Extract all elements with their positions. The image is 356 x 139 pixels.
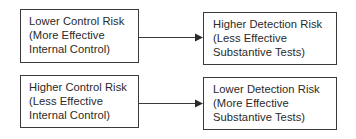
arrow-right-icon [139, 100, 203, 108]
box-title: Lower Control Risk [29, 14, 138, 28]
box-subtitle: Substantive Tests) [213, 45, 336, 59]
box-subtitle: (Less Effective [213, 31, 336, 45]
box-subtitle: (Less Effective [29, 94, 138, 108]
box-title: Higher Control Risk [29, 80, 138, 94]
box-subtitle: Internal Control) [29, 42, 138, 56]
box-subtitle: Substantive Tests) [213, 110, 336, 124]
box-subtitle: (More Effective [213, 96, 336, 110]
lower-control-risk-box: Lower Control Risk (More Effective Inter… [20, 9, 139, 63]
box-title: Lower Detection Risk [213, 82, 336, 96]
lower-detection-risk-box: Lower Detection Risk (More Effective Sub… [203, 77, 337, 130]
higher-control-risk-box: Higher Control Risk (Less Effective Inte… [20, 75, 139, 128]
box-subtitle: (More Effective [29, 28, 138, 42]
higher-detection-risk-box: Higher Detection Risk (Less Effective Su… [203, 12, 337, 65]
box-title: Higher Detection Risk [213, 17, 336, 31]
arrow-right-icon [139, 34, 203, 42]
box-subtitle: Internal Control) [29, 108, 138, 122]
